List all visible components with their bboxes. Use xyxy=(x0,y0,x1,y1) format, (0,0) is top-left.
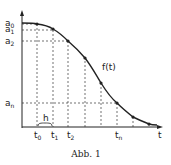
x-label-t0: t0 xyxy=(34,130,42,141)
x-axis-label: t xyxy=(158,130,162,140)
x-axis-arrow-icon xyxy=(157,125,163,129)
vertical-guides xyxy=(37,24,149,127)
x-label-tn: tn xyxy=(115,130,123,141)
curve-f-of-t xyxy=(22,23,157,125)
curve-label: f(t) xyxy=(102,62,116,72)
step-label: h xyxy=(43,113,49,123)
x-label-t2: t2 xyxy=(67,130,75,141)
diagram-canvas: h a0 a1 a2 an t0 t1 t2 tn t f(t) Abb. 1 xyxy=(0,0,171,165)
y-label-an: an xyxy=(5,98,15,109)
x-label-t1: t1 xyxy=(51,130,59,141)
y-label-a2: a2 xyxy=(5,36,15,47)
y-axis-arrow-icon xyxy=(20,10,24,16)
figure-caption: Abb. 1 xyxy=(70,149,100,159)
step-brace xyxy=(38,123,52,126)
